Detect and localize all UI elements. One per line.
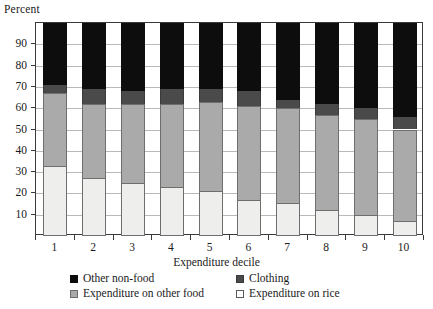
bar-decile-9[interactable] [354,23,378,234]
x-axis-title: Expenditure decile [0,256,433,268]
y-tick-label: 90 [0,37,27,49]
x-tick-mark [384,235,385,240]
bar-segment-clothing [276,100,300,109]
bar-segment-clothing [393,117,417,130]
legend-label: Clothing [249,272,289,285]
legend-row: Other non-food Clothing [70,272,370,285]
bar-segment-other-non-food [199,23,223,89]
bar-segment-other-non-food [276,23,300,100]
bar-segment-clothing [160,89,184,104]
x-tick-label: 10 [398,241,410,253]
white-square-icon [236,290,244,298]
legend-entry-other-non-food: Other non-food [70,272,236,285]
y-tick-label: 60 [0,101,27,113]
x-tick-label: 8 [323,241,329,253]
bar-segment-expenditure-on-rice [276,203,300,236]
x-tick-label: 6 [246,241,252,253]
y-tick-label: 70 [0,80,27,92]
bar-decile-1[interactable] [43,23,67,234]
bar-segment-expenditure-on-rice [393,221,417,236]
bar-segment-expenditure-on-rice [237,200,261,236]
y-tick-label: 20 [0,186,27,198]
bar-segment-clothing [82,89,106,104]
x-tick-label: 9 [362,241,368,253]
bar-segment-other-non-food [121,23,145,91]
y-tick-label: 40 [0,144,27,156]
y-tick-label: 30 [0,165,27,177]
bar-segment-expenditure-on-other-food [82,104,106,179]
bar-segment-expenditure-on-other-food [121,104,145,183]
light-gray-square-icon [70,290,78,298]
y-tick-label: 50 [0,123,27,135]
x-tick-label: 4 [168,241,174,253]
bar-segment-expenditure-on-rice [199,191,223,236]
bar-segment-expenditure-on-rice [160,187,184,236]
x-tick-label: 3 [129,241,135,253]
x-tick-mark [423,235,424,240]
bar-segment-clothing [199,89,223,102]
bar-segment-expenditure-on-rice [354,215,378,236]
x-tick-mark [151,235,152,240]
legend-label: Expenditure on rice [249,287,340,300]
bar-segment-expenditure-on-other-food [393,130,417,222]
plot-area [35,22,423,235]
bar-segment-clothing [121,91,145,104]
legend-entry-clothing: Clothing [236,272,289,285]
bar-segment-expenditure-on-rice [82,178,106,236]
x-tick-mark [229,235,230,240]
bar-segment-expenditure-on-rice [121,183,145,236]
bar-decile-7[interactable] [276,23,300,234]
legend-label: Expenditure on other food [83,287,204,300]
bar-segment-expenditure-on-other-food [354,119,378,215]
bar-decile-3[interactable] [121,23,145,234]
x-tick-label: 7 [284,241,290,253]
legend-entry-expenditure-on-rice: Expenditure on rice [236,287,340,300]
x-tick-mark [113,235,114,240]
dark-gray-square-icon [236,275,244,283]
bar-decile-6[interactable] [237,23,261,234]
bar-decile-10[interactable] [393,23,417,234]
x-tick-label: 5 [207,241,213,253]
bar-segment-expenditure-on-rice [315,210,339,236]
x-tick-mark [74,235,75,240]
legend-row: Expenditure on other food Expenditure on… [70,287,370,300]
bar-segment-clothing [354,108,378,119]
bar-segment-expenditure-on-rice [43,166,67,236]
y-axis-title: Percent [4,3,40,15]
bar-segment-other-non-food [82,23,106,89]
bar-segment-expenditure-on-other-food [315,115,339,211]
bar-segment-expenditure-on-other-food [43,93,67,165]
x-tick-mark [345,235,346,240]
bar-segment-other-non-food [393,23,417,117]
bar-decile-2[interactable] [82,23,106,234]
bar-segment-other-non-food [354,23,378,108]
bar-segment-expenditure-on-other-food [237,106,261,200]
x-tick-label: 2 [90,241,96,253]
bar-segment-clothing [315,104,339,115]
x-tick-label: 1 [52,241,58,253]
bar-segment-other-non-food [315,23,339,104]
stacked-bar-chart: Percent 102030405060708090 12345678910 E… [0,0,433,309]
x-tick-mark [268,235,269,240]
legend-entry-expenditure-on-other-food: Expenditure on other food [70,287,236,300]
bar-segment-clothing [237,91,261,106]
bar-decile-4[interactable] [160,23,184,234]
bar-segment-clothing [43,85,67,94]
bar-decile-5[interactable] [199,23,223,234]
x-tick-mark [35,235,36,240]
bar-segment-expenditure-on-other-food [276,108,300,203]
chart-legend: Other non-food Clothing Expenditure on o… [70,272,370,302]
x-tick-mark [190,235,191,240]
bar-segment-other-non-food [160,23,184,89]
bar-segment-expenditure-on-other-food [199,102,223,191]
y-tick-label: 10 [0,208,27,220]
bar-segment-other-non-food [43,23,67,85]
black-square-icon [70,275,78,283]
x-tick-mark [307,235,308,240]
bar-decile-8[interactable] [315,23,339,234]
legend-label: Other non-food [83,272,154,285]
y-tick-label: 80 [0,59,27,71]
bar-segment-other-non-food [237,23,261,91]
bar-segment-expenditure-on-other-food [160,104,184,187]
